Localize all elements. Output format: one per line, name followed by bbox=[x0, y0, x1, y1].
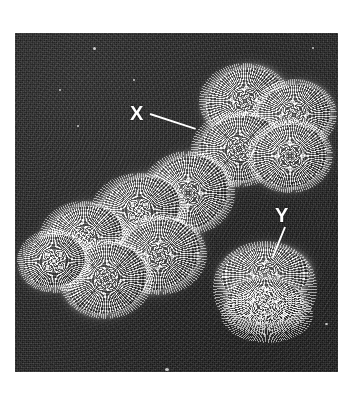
micrograph-plate: X Y bbox=[15, 33, 338, 372]
figure-root: X Y Human X and Y chromosomes bbox=[0, 0, 348, 395]
dust-speck bbox=[59, 89, 61, 91]
dust-speck bbox=[165, 368, 169, 371]
dust-speck bbox=[93, 47, 96, 50]
y-chromosome bbox=[15, 33, 338, 372]
dust-speck bbox=[77, 125, 79, 127]
dust-speck bbox=[312, 47, 314, 49]
dust-speck bbox=[325, 323, 328, 325]
dust-speck bbox=[133, 79, 135, 81]
